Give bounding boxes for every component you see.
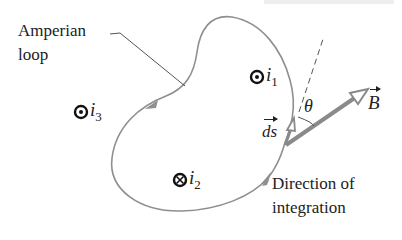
current-i1-out-icon <box>251 71 263 83</box>
theta-label: θ <box>304 96 313 117</box>
current-i3-label: i3 <box>90 99 102 125</box>
amperian-label-line1: Amperian <box>18 21 86 41</box>
loop-leader-line <box>110 33 185 86</box>
current-i2-in-icon <box>174 174 186 186</box>
b-vector-label: B <box>368 92 380 114</box>
direction-label-line1: Direction of <box>272 174 355 194</box>
direction-label-line2: integration <box>272 198 346 218</box>
ds-vector-arrowhead-icon <box>287 118 295 131</box>
amperian-label-line2: loop <box>18 45 48 65</box>
current-i3-out-icon <box>75 106 87 118</box>
theta-arc <box>298 117 314 126</box>
b-vector-shaft <box>286 97 356 145</box>
ds-vector-label: ds <box>262 122 277 142</box>
b-vector-arrowhead-icon <box>350 89 368 104</box>
current-i2-label: i2 <box>189 167 201 193</box>
loop-arrow-left-icon <box>145 100 158 109</box>
current-i1-label: i1 <box>266 64 278 90</box>
